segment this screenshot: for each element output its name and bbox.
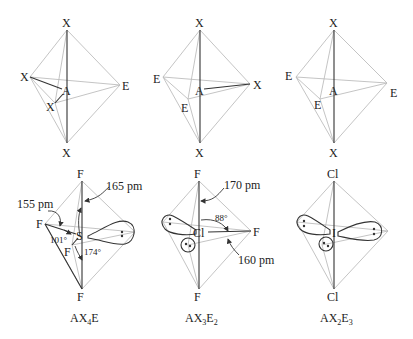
atom-bottom: X (195, 146, 204, 160)
atom-top: F (77, 167, 84, 181)
atom-center: Cl (193, 226, 205, 240)
molecule-ax4e-generic: X X A X E X (20, 16, 129, 160)
atom-bottom: X (329, 146, 338, 160)
vsepr-diagram: X X A X E X X E A E X X (0, 0, 413, 339)
atom-center: A (329, 84, 338, 98)
atom-front: X (46, 100, 55, 114)
angle-axial: 174° (84, 247, 102, 257)
bipyramid-edges (30, 30, 120, 143)
atom-right: F (253, 225, 260, 239)
atom-top: Cl (327, 167, 339, 181)
bond-length-axial: 165 pm (106, 179, 143, 193)
bond-length-equatorial: 160 pm (238, 253, 275, 267)
atom-front: E (314, 98, 321, 112)
atom-right: X (253, 78, 262, 92)
bond-length-equatorial: 155 pm (17, 197, 54, 211)
atom-center: A (195, 84, 204, 98)
atom-left: E (153, 72, 160, 86)
atom-center: I (332, 226, 336, 240)
atom-top: X (195, 16, 204, 30)
formula-label: AX4E (70, 311, 99, 327)
atom-bottom: F (77, 290, 84, 304)
atom-top: X (329, 16, 338, 30)
angle-equatorial: 101° (50, 235, 68, 245)
atom-top: F (194, 167, 201, 181)
molecule-clf3: F Cl F F 170 pm 160 pm 88° AX3E2 (162, 167, 275, 327)
atom-bottom: X (62, 146, 71, 160)
atom-left: E (285, 69, 292, 83)
atom-top: X (62, 16, 71, 30)
bond-angle: 88° (215, 213, 228, 223)
atom-bottom: F (194, 290, 201, 304)
lone-pair-lobe-right (338, 222, 382, 241)
atom-center: S (76, 229, 83, 243)
atom-left: X (20, 70, 29, 84)
formula-label: AX2E3 (320, 311, 353, 327)
atom-right: E (390, 86, 397, 100)
formula-label: AX3E2 (185, 311, 218, 327)
molecule-icl2: Cl I Cl AX2E3 (297, 167, 388, 327)
molecule-ax2e3-generic: X E A E E X (285, 16, 397, 160)
molecule-sf4: F F S F F 165 pm 155 pm 101° 174° AX4E (17, 167, 143, 327)
bipyramid-edges (296, 30, 387, 143)
atom-bottom: Cl (327, 290, 339, 304)
bond-length-axial: 170 pm (224, 178, 261, 192)
atom-right: E (122, 79, 129, 93)
bipyramid-edges (163, 30, 250, 143)
atom-left: F (36, 217, 43, 231)
bipyramid-edges (163, 181, 251, 289)
atom-front: F (64, 245, 71, 259)
atom-front: E (181, 101, 188, 115)
molecule-ax3e2-generic: X E A E X X (153, 16, 262, 160)
atom-center: A (62, 84, 71, 98)
